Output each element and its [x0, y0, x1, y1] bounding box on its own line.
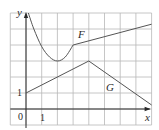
x-axis-label: x: [145, 112, 150, 123]
curve-f-label: F: [78, 29, 85, 40]
y-axis-label: y: [17, 7, 22, 18]
function-graph: [0, 0, 159, 130]
y-tick-label-1: 1: [17, 88, 22, 98]
curve-f: [28, 13, 151, 61]
origin-tick-label: 0: [18, 112, 23, 122]
curve-g-label: G: [106, 82, 114, 93]
x-tick-label-1: 1: [40, 113, 45, 123]
